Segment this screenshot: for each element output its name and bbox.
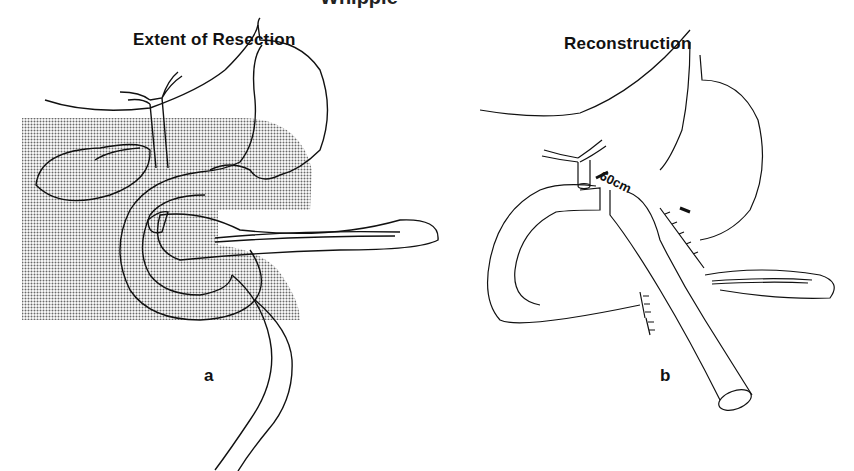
- panel-b-drawing: [480, 30, 834, 414]
- stomach-remnant: [700, 55, 763, 240]
- panel-a-label: a: [204, 366, 213, 386]
- pancreas-remnant: [705, 270, 834, 298]
- panel-a-drawing: [22, 18, 438, 471]
- jejunal-loop: [488, 185, 640, 323]
- anatomy-illustration: [0, 0, 854, 471]
- panel-b-label: b: [660, 366, 670, 386]
